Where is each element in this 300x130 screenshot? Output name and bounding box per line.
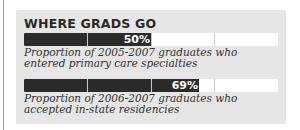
bar-gridline-75 [214, 33, 215, 46]
bar-value-label: 50% [24, 33, 150, 46]
bar-caption-in-state-residencies: Proportion of 2006-2007 graduates who ac… [24, 93, 282, 115]
panel-title: WHERE GRADS GO [24, 16, 156, 31]
bar-gridline-50 [151, 33, 152, 46]
progress-bar-primary-care: 50% [24, 33, 278, 46]
bar-gridline-75 [214, 79, 215, 92]
bar-value-label: 69% [24, 79, 198, 92]
left-divider-line [3, 0, 4, 130]
where-grads-go-panel: WHERE GRADS GO 50% Proportion of 2005-20… [16, 10, 286, 124]
progress-bar-in-state-residencies: 69% [24, 79, 278, 92]
bar-caption-primary-care: Proportion of 2005-2007 graduates who en… [24, 47, 282, 69]
